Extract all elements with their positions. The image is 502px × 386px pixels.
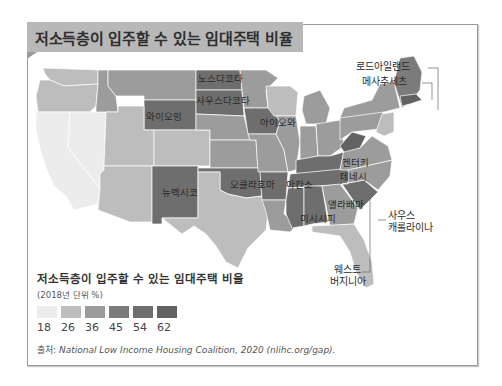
legend-swatch-18 [37,306,57,318]
legend-swatches [37,306,244,318]
callout-south-carolina-line2: 캐롤라이나 [388,222,433,234]
legend: 저소득층이 입주할 수 있는 임대주택 비율 (2018년 단위 %) 18 2… [37,270,244,334]
legend-ticks: 18 26 36 45 54 62 [37,321,244,334]
label-tennessee: 테네시 [340,171,367,182]
label-mississippi: 미시시피 [300,213,336,224]
source-text: National Low Income Housing Coalition, 2… [59,345,336,355]
leader-massachusetts [422,83,432,100]
callout-massachusetts: 메사추세츠 [362,76,407,88]
label-alabama: 앨라배마 [328,199,364,210]
source-prefix: 출처: [37,345,59,355]
legend-tick: 45 [109,321,133,334]
state-indiana [300,126,318,160]
leader-rhode-island [428,68,438,110]
legend-swatch-36 [85,306,105,318]
callout-west-virginia-line1: 웨스트 [334,264,361,276]
title-notch [27,52,37,59]
label-iowa: 아이오와 [260,117,296,128]
callout-south-carolina-line1: 사우스 [388,210,415,222]
label-wyoming: 와이오밍 [146,111,182,122]
state-arizona [98,166,152,222]
label-kentucky: 켄터키 [342,157,369,168]
legend-tick: 54 [133,321,157,334]
legend-tick: 62 [157,321,181,334]
state-massachusetts [400,94,422,106]
legend-tick: 36 [85,321,109,334]
callout-rhode-island: 로드아일랜드 [356,61,410,73]
page-title: 저소득층이 입주할 수 있는 임대주택 비율 [27,22,303,52]
source-citation: 출처: National Low Income Housing Coalitio… [37,343,335,356]
state-wisconsin [266,86,298,116]
legend-title: 저소득층이 입주할 수 있는 임대주택 비율 [37,270,244,286]
callout-west-virginia-line2: 버지니아 [330,276,366,288]
label-oklahoma: 오클라호마 [230,179,275,190]
legend-swatch-54 [133,306,153,318]
label-new-mexico: 뉴멕시코 [162,187,198,198]
label-arkansas: 아칸소 [286,179,313,190]
legend-swatch-26 [61,306,81,318]
label-south-dakota: 사우스다코타 [196,95,250,106]
state-kansas [210,140,258,168]
legend-swatch-62 [157,306,177,318]
label-north-dakota: 노스다코타 [198,73,243,84]
state-colorado [154,130,210,166]
state-montana [108,70,196,100]
legend-swatch-45 [109,306,129,318]
legend-tick: 26 [61,321,85,334]
legend-tick: 18 [37,321,61,334]
legend-subtitle: (2018년 단위 %) [37,288,244,300]
